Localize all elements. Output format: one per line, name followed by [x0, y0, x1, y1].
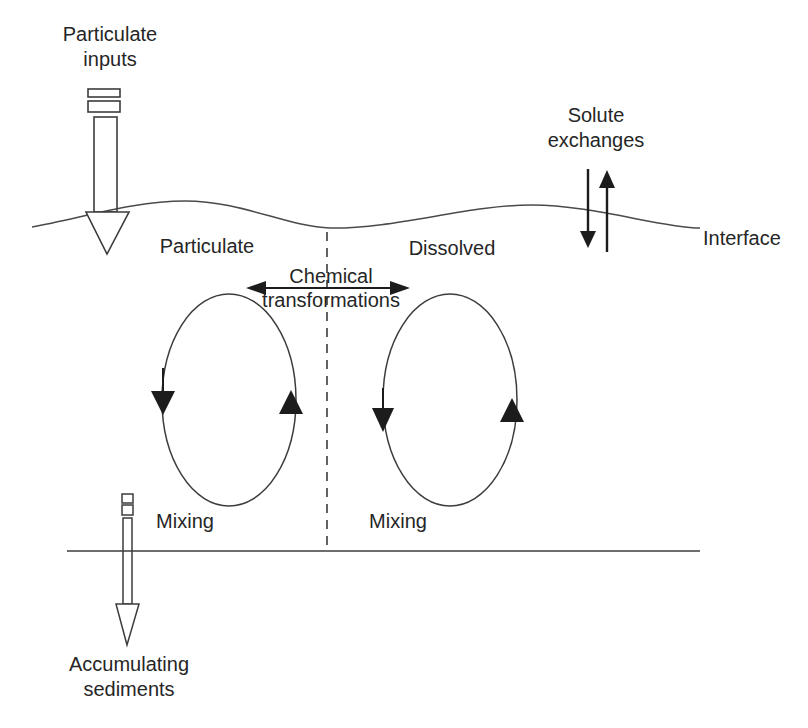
- figure-canvas: Particulate inputs Solute exchanges Inte…: [0, 0, 808, 728]
- chemical-transformations-line1: Chemical: [262, 264, 400, 288]
- mixing-loop-left-icon: [151, 294, 303, 506]
- dissolved-phase-label: Dissolved: [409, 236, 496, 261]
- mixing-left-down-arrow-head: [151, 391, 175, 415]
- solute-exchanges-label: Solute exchanges: [548, 103, 645, 153]
- mixing-left-up-arrow-head: [279, 390, 303, 414]
- accumulating-sediments-line1: Accumulating: [69, 652, 189, 677]
- mixing-loop-right-icon: [372, 294, 524, 506]
- accumulating-sediments-arrow-icon: [116, 494, 139, 645]
- mixing-right-up-arrow-head: [500, 398, 524, 422]
- accumulating-sediments-line2: sediments: [69, 677, 189, 702]
- particulate-arrow-segment-2: [88, 101, 120, 112]
- sediment-arrow-segment-1: [122, 494, 133, 503]
- chemical-transformations-line2: transformations: [262, 288, 400, 312]
- mixing-loop-left-ellipse: [162, 294, 296, 506]
- interface-curve: [32, 201, 700, 228]
- sediment-arrow-segment-2: [122, 505, 133, 515]
- particulate-inputs-line2: inputs: [63, 47, 158, 72]
- particulate-arrow-segment-1: [88, 89, 120, 97]
- mixing-right-down-arrow-head: [372, 408, 394, 432]
- diagram-graphics: [0, 0, 808, 728]
- particulate-inputs-label: Particulate inputs: [63, 22, 158, 72]
- mixing-left-label: Mixing: [156, 509, 214, 534]
- solute-up-arrow-head: [599, 170, 615, 188]
- accumulating-sediments-label: Accumulating sediments: [69, 652, 189, 702]
- sediment-arrow-head: [116, 604, 139, 645]
- particulate-inputs-arrow-icon: [86, 89, 129, 254]
- solute-down-arrow-head: [580, 231, 596, 248]
- mixing-right-label: Mixing: [369, 509, 427, 534]
- interface-label: Interface: [703, 226, 781, 251]
- particulate-inputs-line1: Particulate: [63, 22, 158, 47]
- solute-exchanges-line2: exchanges: [548, 128, 645, 153]
- solute-exchange-arrows-icon: [580, 169, 615, 252]
- mixing-loop-right-ellipse: [383, 294, 517, 506]
- solute-exchanges-line1: Solute: [548, 103, 645, 128]
- particulate-arrow-shaft: [94, 117, 117, 212]
- particulate-phase-label: Particulate: [160, 234, 255, 259]
- particulate-arrow-head: [86, 212, 129, 254]
- sediment-arrow-shaft: [123, 518, 132, 604]
- chemical-transformations-label: Chemical transformations: [262, 264, 400, 312]
